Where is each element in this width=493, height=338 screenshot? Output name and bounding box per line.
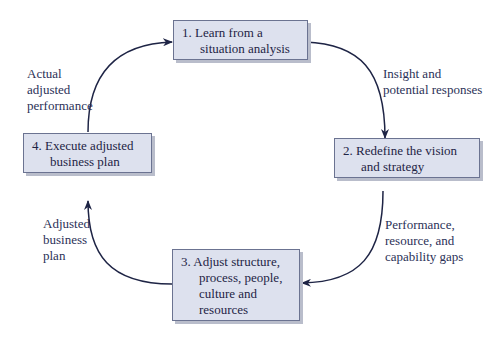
step-4-box: 4. Execute adjusted business plan <box>23 133 152 173</box>
step-2-box: 2. Redefine the vision and strategy <box>334 138 480 178</box>
label-perf-line-1: Actual <box>27 66 93 82</box>
step-4-line-1: 4. Execute adjusted <box>32 138 143 154</box>
step-1-line-1: 1. Learn from a <box>182 25 299 41</box>
step-3-box: 3. Adjust structure, process, people, cu… <box>172 249 300 321</box>
arrow-1-to-2 <box>305 42 385 138</box>
label-perf-line-3: performance <box>27 98 93 114</box>
label-gaps: Performance, resource, and capability ga… <box>385 217 463 265</box>
arrow-3-to-4 <box>88 201 172 284</box>
label-insight-line-1: Insight and <box>383 66 482 82</box>
step-3-line-2: process, people, <box>181 270 291 286</box>
label-gaps-line-1: Performance, <box>385 217 463 233</box>
label-gaps-line-3: capability gaps <box>385 249 463 265</box>
step-3-line-4: resources <box>181 302 291 318</box>
step-2-line-2: and strategy <box>343 159 471 175</box>
arrow-4-to-1 <box>88 42 172 132</box>
step-3-line-1: 3. Adjust structure, <box>181 254 291 270</box>
label-actual-performance: Actual adjusted performance <box>27 66 93 114</box>
label-perf-line-2: adjusted <box>27 82 93 98</box>
label-plan-line-2: business <box>43 232 90 248</box>
label-gaps-line-2: resource, and <box>385 233 463 249</box>
step-1-box: 1. Learn from a situation analysis <box>173 20 308 60</box>
arrow-2-to-3 <box>302 191 383 283</box>
label-adjusted-plan: Adjusted business plan <box>43 216 90 264</box>
label-plan-line-3: plan <box>43 248 90 264</box>
label-insight: Insight and potential responses <box>383 66 482 98</box>
step-4-line-2: business plan <box>32 154 143 170</box>
step-1-line-2: situation analysis <box>182 41 299 57</box>
step-2-line-1: 2. Redefine the vision <box>343 143 471 159</box>
label-plan-line-1: Adjusted <box>43 216 90 232</box>
step-3-line-3: culture and <box>181 286 291 302</box>
label-insight-line-2: potential responses <box>383 82 482 98</box>
